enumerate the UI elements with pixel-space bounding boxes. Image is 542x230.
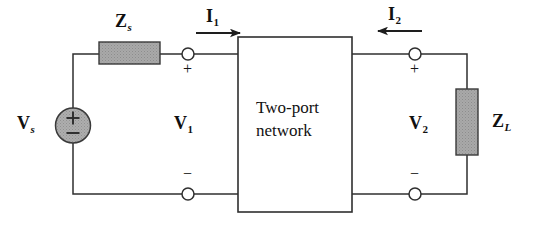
v2-label-subscript: 2: [423, 123, 429, 135]
wire-terminal2b-to-load: [421, 155, 467, 194]
v2-label: V2: [409, 114, 428, 132]
zl-impedance-block: [456, 89, 478, 155]
vs-label-subscript: s: [31, 123, 35, 135]
v1-label-symbol: V: [174, 113, 187, 133]
zs-label: Zs: [115, 12, 131, 30]
v2-label-symbol: V: [409, 113, 422, 133]
i2-label-symbol: I: [388, 4, 395, 24]
v1-label: V1: [174, 114, 193, 132]
port1-plus-sign: +: [183, 61, 192, 77]
i2-label: I2: [388, 5, 401, 23]
i1-label-symbol: I: [206, 6, 213, 26]
zs-label-subscript: s: [128, 21, 132, 33]
v1-label-subscript: 1: [188, 123, 194, 135]
zl-label-subscript: L: [505, 121, 512, 133]
zl-label: ZL: [492, 112, 511, 130]
terminal-port1-positive: [182, 48, 194, 60]
port1-minus-sign: −: [183, 166, 192, 182]
circuit-diagram-figure: Zs ZL Vs V1 V2 I1 I2 Two-port network + …: [0, 0, 542, 230]
zl-label-symbol: Z: [492, 111, 504, 131]
wire-source-bottom: [73, 143, 182, 194]
port2-plus-sign: +: [410, 61, 419, 77]
zs-label-symbol: Z: [115, 11, 127, 31]
vs-label-symbol: V: [17, 113, 30, 133]
terminal-port2-negative: [409, 188, 421, 200]
zs-impedance-block: [99, 42, 160, 64]
two-port-network-label: Two-port network: [256, 97, 352, 143]
i1-label: I1: [206, 7, 219, 25]
i2-label-subscript: 2: [396, 14, 402, 26]
terminal-port1-negative: [182, 188, 194, 200]
vs-label: Vs: [17, 114, 34, 132]
network-label-line1: Two-port: [256, 97, 352, 120]
wire-terminal2-to-load: [421, 54, 467, 89]
terminal-port2-positive: [409, 48, 421, 60]
port2-minus-sign: −: [410, 166, 419, 182]
i1-label-subscript: 1: [214, 16, 220, 28]
wire-source-to-zs: [73, 54, 99, 108]
network-label-line2: network: [256, 120, 352, 143]
